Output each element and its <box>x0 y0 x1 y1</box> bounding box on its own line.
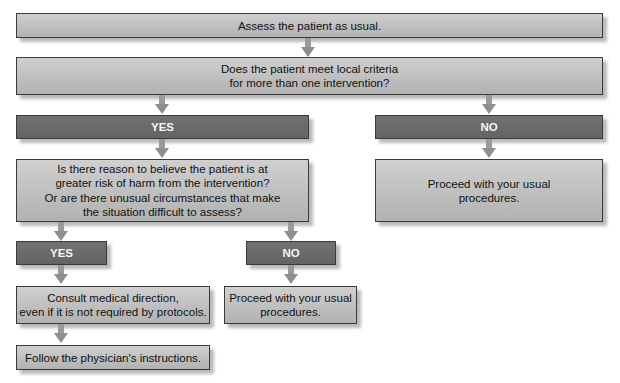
no-label-1: NO <box>480 120 497 134</box>
assess-patient-box: Assess the patient as usual. <box>16 13 603 38</box>
criteria-question-box: Does the patient meet local criteria for… <box>16 57 603 95</box>
proceed-right-line-2: procedures. <box>459 191 520 205</box>
arrow-down-icon <box>482 95 496 115</box>
yes-label-1: YES <box>151 120 174 134</box>
arrow-down-icon <box>54 265 68 285</box>
no-box-2: NO <box>246 241 336 265</box>
follow-label: Follow the physician's instructions. <box>25 351 201 365</box>
consult-line-1: Consult medical direction, <box>47 291 179 305</box>
proceed-middle-line-1: Proceed with your usual <box>229 291 352 305</box>
criteria-question-line-1: Does the patient meet local criteria <box>221 62 398 76</box>
proceed-usual-box-middle: Proceed with your usual procedures. <box>224 286 357 324</box>
risk-question-box: Is there reason to believe the patient i… <box>16 159 309 222</box>
arrow-down-icon <box>284 222 298 242</box>
arrow-down-icon <box>54 324 68 344</box>
arrow-down-icon <box>284 265 298 285</box>
risk-question-line-3: Or are there unusual circumstances that … <box>45 191 281 206</box>
consult-medical-direction-box: Consult medical direction, even if it is… <box>16 286 210 324</box>
no-label-2: NO <box>282 246 299 260</box>
criteria-question-line-2: for more than one intervention? <box>230 76 390 90</box>
assess-patient-label: Assess the patient as usual. <box>238 19 381 33</box>
follow-instructions-box: Follow the physician's instructions. <box>16 345 210 370</box>
arrow-down-icon <box>301 38 315 58</box>
risk-question-line-1: Is there reason to believe the patient i… <box>57 162 267 177</box>
arrow-down-icon <box>155 139 169 159</box>
proceed-middle-line-2: procedures. <box>260 305 321 319</box>
arrow-down-icon <box>155 95 169 115</box>
arrow-down-icon <box>54 222 68 242</box>
no-box-1: NO <box>375 115 603 139</box>
consult-line-2: even if it is not required by protocols. <box>19 305 206 319</box>
proceed-right-line-1: Proceed with your usual <box>428 177 551 191</box>
risk-question-line-2: greater risk of harm from the interventi… <box>55 176 269 191</box>
arrow-down-icon <box>482 139 496 159</box>
proceed-usual-box-right: Proceed with your usual procedures. <box>375 159 603 222</box>
yes-label-2: YES <box>50 246 73 260</box>
yes-box-2: YES <box>16 241 107 265</box>
yes-box-1: YES <box>16 115 309 139</box>
risk-question-line-4: the situation difficult to assess? <box>83 205 242 220</box>
